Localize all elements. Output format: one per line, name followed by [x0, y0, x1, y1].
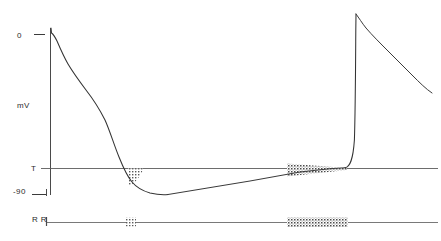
stipple-rr-early [126, 218, 136, 227]
y-tick-label-zero: 0 [17, 31, 22, 40]
y-tick-label-neg90: -90 [13, 187, 26, 196]
membrane-potential-upstroke-2 [345, 14, 356, 168]
membrane-potential-phase1-2-second [356, 14, 432, 93]
stipple-early-repolarization [128, 169, 143, 187]
action-potential-plot [0, 0, 441, 241]
figure-canvas: 0 mV T -90 R R [0, 0, 441, 241]
rr-trace-label: R R [32, 215, 47, 224]
y-tick-label-threshold: T [31, 164, 36, 173]
stipple-rr-late [287, 218, 348, 228]
y-axis-label: mV [17, 101, 30, 110]
membrane-potential-phase0-3 [51, 28, 168, 195]
